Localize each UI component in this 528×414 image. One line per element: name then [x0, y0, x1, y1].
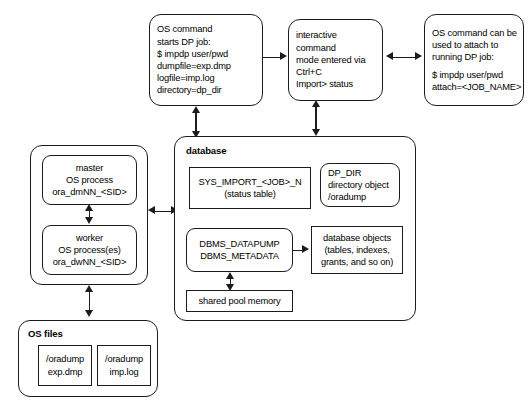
arrow-line-interactive-to-attach [390, 57, 418, 59]
dp-dir-line-2: directory object [328, 179, 389, 191]
arrow-head-interactive-to-attach-right [415, 52, 422, 60]
arrow-head-packages-to-shared-pool-up [226, 272, 234, 279]
datapump-packages-box: DBMS_DATAPUMP DBMS_METADATA [186, 228, 293, 272]
worker-process-line-2: OS process(es) [58, 244, 120, 256]
interactive-mode-line-2: command [296, 42, 336, 54]
os-command-start-line-6: directory=dp_dir [157, 84, 222, 96]
status-table-line-1: SYS_IMPORT_<JOB>_N [198, 176, 301, 188]
worker-process-line-1: worker [76, 232, 103, 244]
os-file-log-box: /oradump imp.log [97, 345, 151, 386]
master-process-line-1: master [76, 162, 104, 174]
arrow-head-interactive-to-attach-left [386, 52, 393, 60]
master-process-box: master OS process ora_dmNN_<SID> [42, 155, 137, 205]
arrow-head-master-to-worker-down [85, 217, 93, 224]
interactive-mode-line-4: Ctrl+C [296, 66, 322, 78]
os-files-label: OS files [28, 328, 63, 339]
os-command-attach-box: OS command can be used to attach to runn… [424, 14, 524, 106]
os-command-start-line-5: logfile=imp.log [157, 72, 214, 84]
interactive-mode-line-1: interactive [296, 29, 337, 41]
os-file-dump-line-1: /oradump [46, 353, 84, 365]
shared-pool-memory-line-1: shared pool memory [198, 295, 280, 307]
database-objects-line-1: database objects [323, 232, 391, 244]
os-command-attach-line-2: used to attach to [432, 39, 498, 51]
master-process-line-3: ora_dmNN_<SID> [52, 186, 126, 198]
worker-process-box: worker OS process(es) ora_dwNN_<SID> [42, 225, 137, 275]
arrow-head-master-to-worker-up [85, 204, 93, 211]
status-table-box: SYS_IMPORT_<JOB>_N (status table) [189, 167, 311, 209]
os-command-start-line-3: $ impdp user/pwd [157, 48, 228, 60]
database-objects-box: database objects (tables, indexes, grant… [311, 226, 403, 274]
arrow-head-packages-to-db-objects [302, 245, 309, 253]
interactive-command-mode-box: interactive command mode entered via Ctr… [288, 19, 383, 101]
os-command-start-line-1: OS command [157, 23, 212, 35]
datapump-packages-line-2: DBMS_METADATA [200, 250, 279, 262]
arrow-head-processes-to-os-files-up [85, 285, 93, 292]
arrow-head-start-to-interactive [280, 52, 287, 60]
datapump-packages-line-1: DBMS_DATAPUMP [199, 238, 279, 250]
database-label: database [186, 145, 226, 156]
arrow-head-interactive-to-database-down [312, 129, 320, 136]
interactive-mode-line-5: Import> status [296, 78, 353, 90]
os-command-start-line-4: dumpfile=exp.dmp [157, 60, 231, 72]
database-objects-line-3: grants, and so on) [321, 256, 393, 268]
os-command-attach-line-5: $ impdp user/pwd [432, 69, 503, 81]
os-command-start-box: OS command starts DP job: $ impdp user/p… [149, 14, 263, 106]
os-file-dump-line-2: exp.dmp [48, 366, 83, 378]
arrow-head-start-to-database-up [192, 106, 200, 113]
arrow-head-processes-to-os-files-down [85, 310, 93, 317]
os-file-dump-box: /oradump exp.dmp [38, 345, 92, 386]
os-file-log-line-1: /oradump [105, 353, 143, 365]
dp-dir-box: DP_DIR directory object /oradump [320, 163, 400, 207]
shared-pool-memory-box: shared pool memory [186, 290, 293, 312]
os-command-attach-line-6: attach=<JOB_NAME> [432, 81, 521, 93]
dp-dir-line-3: /oradump [328, 191, 366, 203]
worker-process-line-3: ora_dwNN_<SID> [53, 256, 126, 268]
status-table-line-2: (status table) [224, 188, 276, 200]
os-command-start-line-2: starts DP job: [157, 36, 211, 48]
os-command-attach-line-3: running DP job: [432, 51, 494, 63]
arrow-head-processes-to-database-left [148, 206, 155, 214]
master-process-line-2: OS process [66, 174, 113, 186]
os-file-log-line-2: imp.log [110, 366, 139, 378]
database-objects-line-2: (tables, indexes, [324, 244, 389, 256]
arrow-head-interactive-to-database-up [312, 100, 320, 107]
interactive-mode-line-3: mode entered via [296, 54, 365, 66]
data-pump-architecture-diagram: OS command starts DP job: $ impdp user/p… [0, 0, 528, 414]
arrow-line-start-to-interactive [263, 57, 281, 59]
os-command-attach-line-1: OS command can be [432, 27, 517, 39]
dp-dir-line-1: DP_DIR [328, 167, 361, 179]
arrow-head-packages-to-shared-pool-down [226, 284, 234, 291]
